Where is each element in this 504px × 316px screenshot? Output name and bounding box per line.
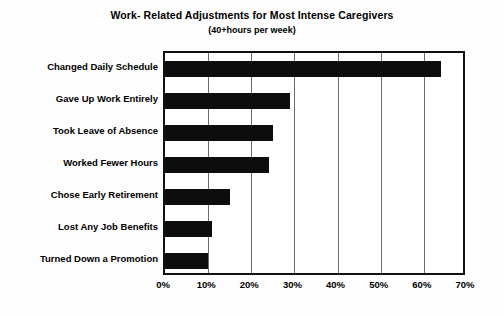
chart-title: Work- Related Adjustments for Most Inten… — [0, 9, 504, 22]
category-label: Chose Early Retirement — [0, 189, 158, 200]
category-label: Took Leave of Absence — [0, 125, 158, 136]
category-label: Changed Daily Schedule — [0, 61, 158, 72]
bar — [165, 157, 269, 173]
bar — [165, 189, 230, 205]
bar — [165, 253, 208, 269]
x-tick-label: 30% — [272, 279, 312, 291]
bar — [165, 221, 212, 237]
category-label: Lost Any Job Benefits — [0, 221, 158, 232]
chart-subtitle: (40+hours per week) — [0, 24, 504, 36]
plot-area — [163, 51, 465, 275]
bar — [165, 93, 290, 109]
x-tick-label: 40% — [316, 279, 356, 291]
x-tick-label: 50% — [359, 279, 399, 291]
bar — [165, 61, 441, 77]
bar — [165, 125, 273, 141]
x-tick-label: 0% — [143, 279, 183, 291]
x-tick-label: 60% — [402, 279, 442, 291]
value-axis-labels: 0%10%20%30%40%50%60%70% — [0, 279, 504, 295]
category-label: Worked Fewer Hours — [0, 157, 158, 168]
category-label: Turned Down a Promotion — [0, 253, 158, 264]
category-axis-labels: Changed Daily ScheduleGave Up Work Entir… — [0, 51, 158, 275]
bars — [165, 53, 463, 273]
x-tick-label: 70% — [445, 279, 485, 291]
x-tick-label: 10% — [186, 279, 226, 291]
chart-title-block: Work- Related Adjustments for Most Inten… — [0, 9, 504, 36]
category-label: Gave Up Work Entirely — [0, 93, 158, 104]
bar-chart: Work- Related Adjustments for Most Inten… — [0, 0, 504, 316]
x-tick-label: 20% — [229, 279, 269, 291]
